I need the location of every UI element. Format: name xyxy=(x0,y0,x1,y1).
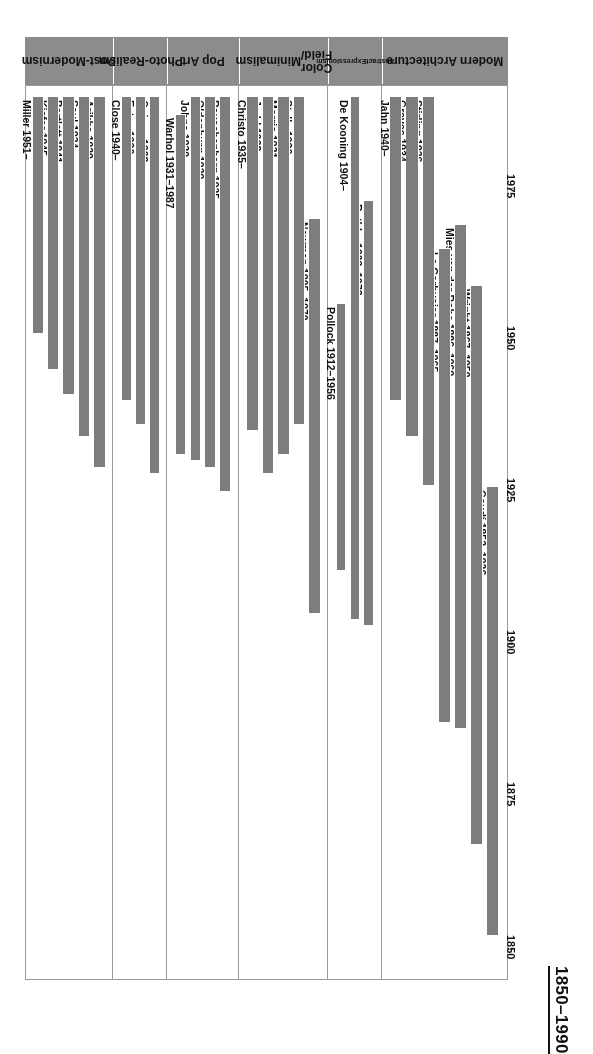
category-label-line: Minimalism xyxy=(236,55,301,68)
timeline-bar xyxy=(470,285,483,845)
timeline-bar xyxy=(121,96,132,400)
timeline-bar xyxy=(32,96,44,333)
category-label-modern-architecture[interactable]: Modern Architecture xyxy=(382,38,507,84)
timeline-bar xyxy=(219,96,231,492)
category-label-line: Modern Architecture xyxy=(386,55,503,68)
timeline-bar xyxy=(204,96,216,467)
timeline-bar xyxy=(149,96,160,473)
category-label-line: Photo- xyxy=(145,55,183,68)
timeline-bar xyxy=(293,96,305,425)
timeline-bar xyxy=(190,96,202,461)
timeline-bar xyxy=(363,200,374,626)
group-separator xyxy=(381,86,382,979)
plot-area: Gaudí 1852–1926Wright 1867–1959Mies van … xyxy=(25,85,508,980)
timeline-bar xyxy=(486,486,499,937)
category-label-line: Color Field/ xyxy=(301,48,332,73)
timeline-bar xyxy=(262,96,274,473)
group-separator xyxy=(112,86,113,979)
axis-tick-label: 1875 xyxy=(505,782,517,806)
timeline-bar xyxy=(405,96,418,437)
axis-tick-label: 1850 xyxy=(505,935,517,959)
category-label-line: Modernism xyxy=(22,55,86,68)
category-label-line: Abstract xyxy=(366,57,394,64)
group-separator xyxy=(166,86,167,979)
category-label-abstract-expressionism[interactable]: AbstractExpressionism xyxy=(328,38,382,84)
category-label-post-modernism[interactable]: Post-Modernism xyxy=(24,38,113,84)
timeline-bar xyxy=(277,96,289,455)
group-separator xyxy=(238,86,239,979)
axis-tick-label: 1925 xyxy=(505,478,517,502)
category-label-line: Post- xyxy=(86,55,116,68)
timeline-bar xyxy=(422,96,435,486)
category-label-photo-realism[interactable]: Photo-Realism xyxy=(113,38,167,84)
timeline-bar xyxy=(47,96,59,370)
timeline-bar xyxy=(336,303,347,571)
timeline-bar xyxy=(308,218,320,614)
axis-tick-label: 1950 xyxy=(505,326,517,350)
category-label-line: Pop Art xyxy=(182,55,225,68)
timeline-bar xyxy=(246,96,258,431)
category-header-strip: Modern ArchitectureAbstractExpressionism… xyxy=(25,37,508,85)
category-label-color-field-minimalism[interactable]: Color Field/Minimalism xyxy=(239,38,328,84)
axis-tick-label: 1900 xyxy=(505,630,517,654)
timeline-bar xyxy=(389,96,402,400)
group-separator xyxy=(327,86,328,979)
timeline-bar xyxy=(135,96,146,425)
page-title: 1850–1990 xyxy=(548,966,571,1054)
timeline-bar xyxy=(78,96,90,437)
timeline-bar xyxy=(175,114,187,455)
timeline-bar xyxy=(62,96,74,394)
timeline-bar xyxy=(350,96,361,620)
timeline-bar xyxy=(93,96,105,467)
timeline-bar xyxy=(454,224,467,729)
axis-tick-label: 1975 xyxy=(505,174,517,198)
timeline-bar xyxy=(438,248,451,723)
